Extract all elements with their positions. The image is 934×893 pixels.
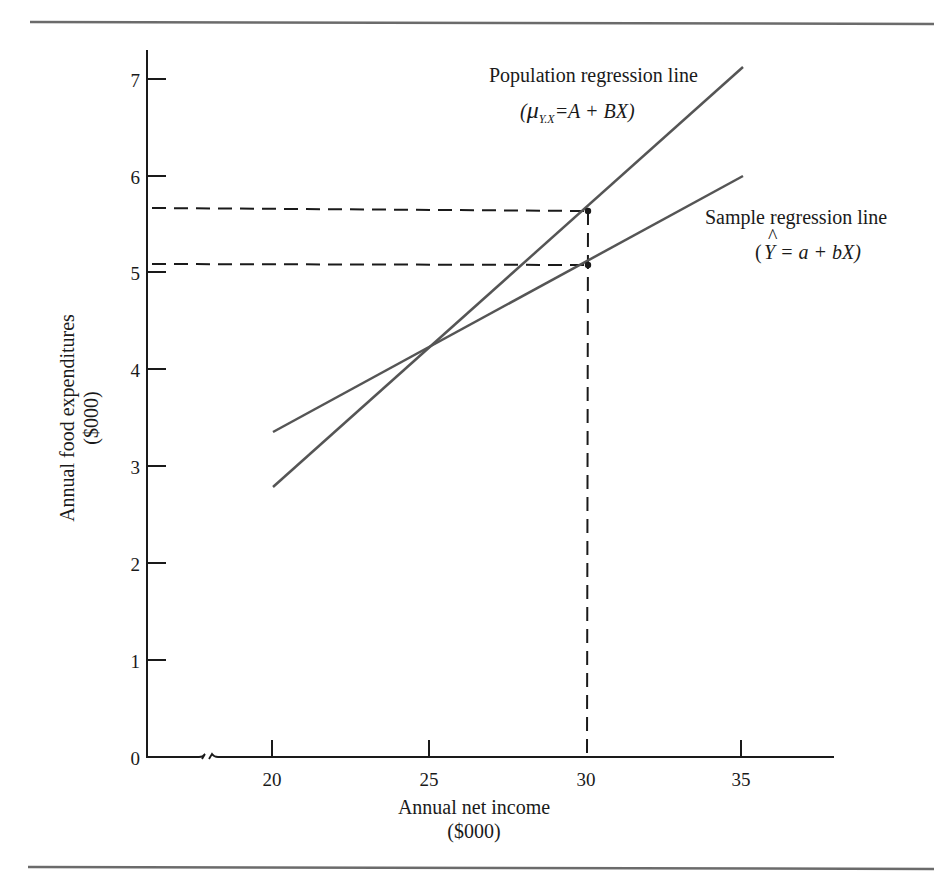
population-line-equation: (μY.X=A + BX) (520, 97, 635, 126)
population-point (585, 208, 591, 214)
y-tick-7: 7 (131, 70, 141, 91)
x-axis-units: ($000) (447, 820, 500, 843)
x-tick-20: 20 (263, 769, 282, 790)
y-tick-5: 5 (131, 263, 141, 284)
x-axis-title: Annual net income (398, 796, 550, 818)
sample-line-label: Sample regression line (705, 206, 887, 229)
y-tick-6: 6 (131, 167, 141, 188)
svg-text:(: ( (755, 241, 762, 264)
x-axis: 20 25 30 35 (147, 740, 834, 790)
sample-line-equation: ( Y ^ = a + bX) (755, 225, 861, 264)
population-line-label: Population regression line (489, 64, 698, 87)
dashed-guides (152, 208, 588, 757)
y-tick-2: 2 (131, 554, 141, 575)
y-axis-title: Annual food expenditures (56, 314, 79, 522)
x-tick-30: 30 (577, 769, 596, 790)
y-tick-0: 0 (131, 748, 141, 769)
x-tick-25: 25 (420, 769, 439, 790)
top-rule (30, 22, 934, 24)
axis-break-icon (199, 754, 205, 759)
regression-chart: 0 1 2 3 4 5 6 7 20 25 30 35 Annual net i… (0, 0, 934, 893)
x-tick-35: 35 (732, 769, 751, 790)
y-axis-units: ($000) (80, 391, 103, 444)
sample-regression-line (273, 176, 743, 432)
sample-point (585, 262, 591, 268)
y-tick-3: 3 (131, 457, 141, 478)
svg-text:^: ^ (768, 225, 778, 247)
y-axis: 0 1 2 3 4 5 6 7 (131, 50, 167, 769)
y-tick-1: 1 (131, 651, 141, 672)
svg-text:= a + bX): = a + bX) (780, 241, 861, 264)
population-regression-line (273, 67, 743, 487)
y-tick-4: 4 (131, 360, 141, 381)
bottom-rule (28, 867, 934, 869)
